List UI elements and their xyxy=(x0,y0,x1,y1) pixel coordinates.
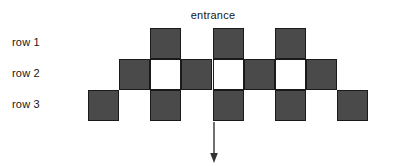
grid-cell-r3-c2 xyxy=(150,90,181,121)
grid-cell-r2-c3 xyxy=(181,59,212,90)
grid-cell-r3-c4 xyxy=(275,90,306,121)
row-label-2: row 2 xyxy=(12,68,40,79)
grid-cell-r2-c2 xyxy=(150,59,181,90)
entrance-label: entrance xyxy=(191,10,235,21)
grid-cell-r2-c5 xyxy=(244,59,275,90)
grid-cell-r1-c3 xyxy=(275,28,306,59)
row-label-1: row 1 xyxy=(12,37,40,48)
grid-cell-r2-c4 xyxy=(213,59,244,90)
grid-cell-r3-c3 xyxy=(213,90,244,121)
grid-cell-r3-c5 xyxy=(337,90,368,121)
grid-cell-r2-c6 xyxy=(275,59,306,90)
down-arrow-icon xyxy=(206,122,222,164)
grid-cell-r1-c1 xyxy=(150,28,181,59)
grid-cell-r2-c1 xyxy=(119,59,150,90)
diagram-canvas: entrance row 1 row 2 row 3 xyxy=(0,0,394,166)
row-label-3: row 3 xyxy=(12,99,40,110)
grid-cell-r2-c7 xyxy=(306,59,337,90)
grid-cell-r1-c2 xyxy=(213,28,244,59)
grid-cell-r3-c1 xyxy=(88,90,119,121)
